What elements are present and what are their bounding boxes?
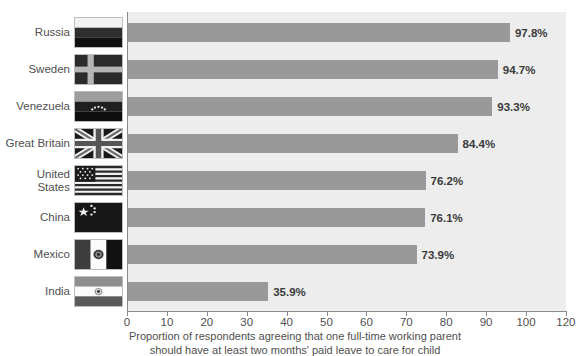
flag-russia-icon (74, 17, 123, 48)
flag-mexico-icon (74, 239, 123, 270)
flag-china-icon (74, 202, 123, 233)
x-tick-label: 60 (360, 316, 373, 328)
chart-row: India35.9% (0, 273, 582, 310)
x-tick-label: 90 (480, 316, 493, 328)
x-tick-label: 120 (556, 316, 575, 328)
bar (128, 60, 498, 79)
flag-venezuela-icon (74, 91, 123, 122)
x-tick-label: 70 (400, 316, 413, 328)
bar (128, 245, 417, 264)
bar-value-label: 93.3% (497, 97, 530, 116)
bar (128, 171, 426, 190)
x-tick-label: 40 (280, 316, 293, 328)
flag-great-britain-icon (74, 128, 123, 159)
bar-value-label: 35.9% (273, 282, 306, 301)
category-label: Russia (0, 14, 70, 51)
flag-united-states-icon (74, 165, 123, 196)
x-tick-label: 30 (240, 316, 253, 328)
chart-row: Russia97.8% (0, 14, 582, 51)
bar (128, 23, 510, 42)
chart-row: Mexico73.9% (0, 236, 582, 273)
category-label: United States (0, 162, 70, 199)
x-tick-label: 20 (200, 316, 213, 328)
category-label: Venezuela (0, 88, 70, 125)
x-axis-caption-line-2: should have at least two months' paid le… (60, 344, 530, 356)
bar (128, 282, 268, 301)
bar (128, 134, 458, 153)
bar-value-label: 97.8% (515, 23, 548, 42)
x-tick-label: 10 (160, 316, 173, 328)
bar-chart: Russia97.8%Sweden94.7%Venezuela93.3%Grea… (0, 0, 582, 356)
chart-row: China76.1% (0, 199, 582, 236)
flag-sweden-icon (74, 54, 123, 85)
bar-value-label: 94.7% (503, 60, 536, 79)
chart-row: United States76.2% (0, 162, 582, 199)
x-tick-label: 80 (440, 316, 453, 328)
category-label: China (0, 199, 70, 236)
bar-value-label: 84.4% (463, 134, 496, 153)
chart-row: Venezuela93.3% (0, 88, 582, 125)
flag-india-icon (74, 276, 123, 307)
bar-value-label: 76.1% (430, 208, 463, 227)
category-label: India (0, 273, 70, 310)
x-tick-label: 0 (124, 316, 130, 328)
x-tick-label: 100 (516, 316, 535, 328)
x-tick-label: 50 (320, 316, 333, 328)
category-label: Mexico (0, 236, 70, 273)
chart-row: Great Britain84.4% (0, 125, 582, 162)
bar-value-label: 73.9% (422, 245, 455, 264)
category-label: Sweden (0, 51, 70, 88)
bar (128, 208, 425, 227)
chart-row: Sweden94.7% (0, 51, 582, 88)
x-axis-caption: Proportion of respondents agreeing that … (60, 330, 530, 356)
bar (128, 97, 492, 116)
x-axis-line (127, 311, 567, 312)
x-axis-caption-line-1: Proportion of respondents agreeing that … (60, 330, 530, 344)
bar-value-label: 76.2% (431, 171, 464, 190)
category-label: Great Britain (0, 125, 70, 162)
